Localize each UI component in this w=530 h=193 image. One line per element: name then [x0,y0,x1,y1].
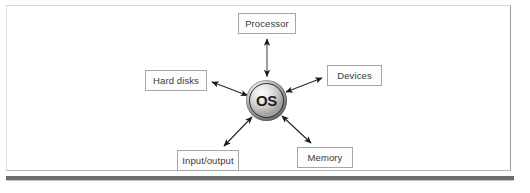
node-processor-label: Processor [245,19,289,29]
node-hard-disks: Hard disks [145,70,207,91]
diagram-screenshot: Processor Hard disks Devices Input/outpu… [0,0,530,193]
node-memory: Memory [297,147,353,168]
node-devices-label: Devices [337,71,372,81]
node-os-center: OS [246,80,287,121]
os-label: OS [246,80,287,121]
node-devices: Devices [327,65,382,86]
node-processor: Processor [238,13,296,34]
node-memory-label: Memory [308,153,343,163]
node-input-output-label: Input/output [182,156,233,166]
node-hard-disks-label: Hard disks [153,76,199,86]
bottom-rule-shadow [6,180,514,181]
node-input-output: Input/output [177,150,239,171]
